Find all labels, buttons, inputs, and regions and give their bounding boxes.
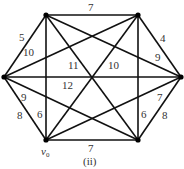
weight-TL-BR: 11 bbox=[68, 59, 79, 71]
edges bbox=[4, 15, 181, 140]
weight-TL-BL: 6 bbox=[37, 108, 43, 120]
vertex-TR bbox=[135, 12, 140, 17]
vertex-BL bbox=[43, 137, 48, 142]
weight-TR-BL: 10 bbox=[108, 59, 120, 71]
weight-BL-BR: 7 bbox=[88, 142, 94, 154]
vertex-BR bbox=[135, 137, 140, 142]
weight-TL-R: 9 bbox=[155, 51, 161, 63]
vertex-TL bbox=[43, 12, 48, 17]
weight-TR-R: 4 bbox=[160, 32, 166, 44]
figure-caption: (ii) bbox=[83, 155, 97, 168]
weight-L-BL: 8 bbox=[17, 109, 23, 121]
weight-L-R: 12 bbox=[62, 79, 73, 91]
weight-BL-R: 7 bbox=[157, 91, 163, 103]
weight-L-BR: 9 bbox=[21, 91, 27, 103]
vertex-L bbox=[1, 74, 6, 79]
vertex-R bbox=[178, 74, 183, 79]
weighted-graph-diagram: 7 5 4 8 8 7 10 9 9 7 11 10 12 6 6 v0 (ii… bbox=[0, 0, 184, 169]
weight-L-TL: 5 bbox=[19, 31, 25, 43]
weight-R-BR: 8 bbox=[162, 109, 168, 121]
weight-TR-BR: 6 bbox=[141, 108, 147, 120]
weight-L-TR: 10 bbox=[23, 46, 35, 58]
weight-TL-TR: 7 bbox=[88, 1, 94, 13]
start-vertex-label: v0 bbox=[41, 145, 50, 159]
